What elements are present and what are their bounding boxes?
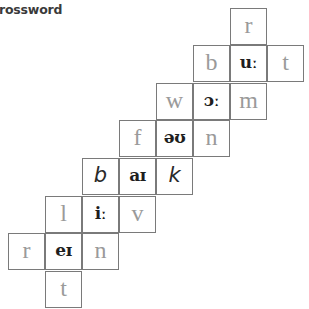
cell-letter: l [60,201,67,228]
crossword-cell[interactable]: v [119,196,156,233]
crossword-cell[interactable]: f [119,120,156,157]
crossword-cell[interactable]: eɪ [45,233,82,270]
cell-letter: w [166,88,183,115]
cell-letter: r [23,238,31,265]
cell-letter: t [282,50,289,77]
crossword-cell[interactable]: iː [82,196,119,233]
cell-letter: uː [240,54,258,74]
cell-letter: iː [95,205,107,225]
crossword-cell[interactable]: uː [230,45,267,82]
cell-letter: əʊ [164,129,185,149]
crossword-cell[interactable]: t [267,45,304,82]
cell-letter: ɔː [204,92,220,112]
crossword-cell[interactable]: w [156,83,193,120]
cell-letter: aɪ [129,167,145,187]
crossword-cell[interactable]: r [230,8,267,45]
cell-letter: t [60,276,67,303]
crossword-cell[interactable]: t [45,271,82,308]
cell-letter: n [206,125,218,152]
crossword-grid: r b uː t w ɔː m f əʊ n b aɪ k l iː v r e… [0,0,309,309]
cell-letter: b [206,50,218,77]
cell-letter: f [134,125,142,152]
crossword-cell[interactable]: l [45,196,82,233]
crossword-cell[interactable]: n [193,120,230,157]
cell-letter: k [168,165,180,189]
cell-letter: m [239,88,258,115]
crossword-cell[interactable]: b [82,158,119,195]
crossword-cell[interactable]: n [82,233,119,270]
crossword-cell[interactable]: m [230,83,267,120]
crossword-cell[interactable]: b [193,45,230,82]
crossword-cell[interactable]: k [156,158,193,195]
cell-letter: eɪ [55,242,71,262]
crossword-cell[interactable]: əʊ [156,120,193,157]
crossword-cell[interactable]: aɪ [119,158,156,195]
cell-letter: b [94,165,107,189]
cell-letter: r [245,13,253,40]
crossword-cell[interactable]: r [8,233,45,270]
cell-letter: v [132,201,144,228]
cell-letter: n [95,238,107,265]
crossword-cell[interactable]: ɔː [193,83,230,120]
